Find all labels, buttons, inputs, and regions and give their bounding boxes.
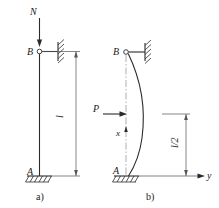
- y-axis-arrow: [139, 174, 205, 179]
- engineering-diagram-canvas: N B A: [0, 0, 219, 208]
- panel-b: B P x A: [92, 40, 212, 203]
- pin-joint-b-panel-a: [37, 49, 42, 54]
- support-label-b-panel-b: B: [113, 46, 119, 57]
- axial-load-label-N: N: [29, 6, 38, 17]
- support-label-a-panel-a: A: [26, 166, 34, 177]
- figure-root: N B A: [0, 0, 219, 208]
- wall-hatching-panel-b: [145, 40, 151, 64]
- x-axis-arrow: [124, 126, 128, 132]
- lateral-load-arrow-P: [103, 111, 127, 116]
- axis-label-x: x: [115, 128, 120, 138]
- support-label-a-panel-b: A: [112, 165, 120, 176]
- length-dimension-label-l: l: [54, 115, 65, 118]
- deflected-column-curve: [128, 54, 143, 176]
- axis-label-y: y: [206, 170, 212, 181]
- panel-caption-b: b): [146, 191, 154, 203]
- pin-joint-b-panel-b: [124, 50, 129, 55]
- panel-caption-a: a): [36, 191, 44, 203]
- axial-load-arrow-N: [37, 18, 42, 47]
- lateral-load-label-P: P: [92, 103, 99, 114]
- length-dimension-panel-a: [42, 52, 80, 177]
- support-label-b-panel-a: B: [27, 46, 33, 57]
- panel-a: N B A: [26, 6, 81, 203]
- half-length-dimension-label: l/2: [169, 137, 180, 148]
- base-hatching-panel-b: [113, 176, 139, 182]
